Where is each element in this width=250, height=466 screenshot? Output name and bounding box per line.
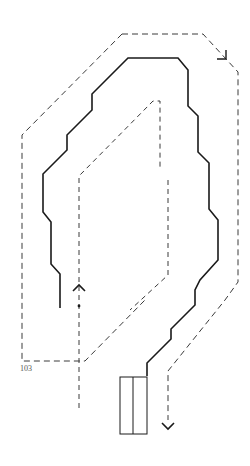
outer-dashed-loop: [122, 34, 238, 420]
path-diagram: [0, 0, 250, 466]
left-outer-dashed-path: [22, 34, 145, 361]
reference-numeral-label: 103: [20, 364, 32, 373]
arrow-down-icon: [162, 423, 174, 429]
start-dot-icon: [78, 305, 81, 308]
solid-wall-trace: [43, 58, 218, 376]
inner-dashed-right-path: [130, 180, 168, 310]
